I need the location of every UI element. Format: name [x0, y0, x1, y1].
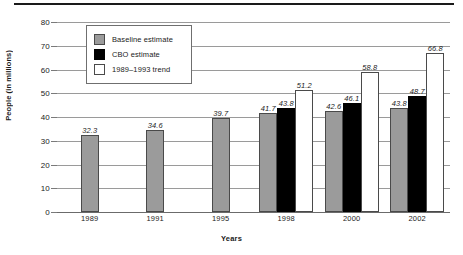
legend-swatch-trend-icon	[94, 64, 105, 75]
x-tick-label-2002: 2002	[409, 214, 427, 223]
x-tick-label-1991: 1991	[147, 214, 165, 223]
bar-2002-trend: 66.8	[426, 53, 444, 212]
bar-value-label-2002-cbo: 48.7	[410, 87, 425, 96]
x-tick-label-1989: 1989	[81, 214, 99, 223]
bar-1998-cbo: 43.8	[277, 108, 295, 212]
y-tick-label-40: 40	[41, 113, 50, 122]
bar-2002-cbo: 48.7	[408, 96, 426, 212]
bar-value-label-1998-trend: 51.2	[297, 81, 312, 90]
bar-value-label-1998-cbo: 43.8	[279, 99, 294, 108]
bar-value-label-2000-trend: 58.8	[362, 63, 377, 72]
bar-1991-baseline: 34.6	[146, 130, 164, 212]
y-tick-label-70: 70	[41, 41, 50, 50]
legend-item-trend: 1989–1993 trend	[94, 62, 184, 77]
chart-figure: People (in millions) 0102030405060708032…	[0, 0, 463, 255]
bar-value-label-1991-baseline: 34.6	[148, 121, 163, 130]
x-tick-label-1998: 1998	[278, 214, 296, 223]
bar-value-label-2000-baseline: 42.6	[326, 102, 341, 111]
legend-swatch-cbo-icon	[94, 49, 105, 60]
bar-1998-trend: 51.2	[295, 90, 313, 212]
legend-item-cbo: CBO estimate	[94, 47, 184, 62]
bar-group-1995: 39.71995	[188, 22, 254, 212]
legend-label-cbo: CBO estimate	[112, 50, 160, 59]
bar-value-label-2000-cbo: 46.1	[344, 94, 359, 103]
bar-2000-baseline: 42.6	[325, 111, 343, 212]
bar-2000-trend: 58.8	[361, 72, 379, 212]
bar-2000-cbo: 46.1	[343, 103, 361, 212]
y-tick-label-20: 20	[41, 160, 50, 169]
y-tick-label-80: 80	[41, 18, 50, 27]
bar-value-label-2002-baseline: 43.8	[392, 99, 407, 108]
x-tick-label-1995: 1995	[212, 214, 230, 223]
x-tick-label-2000: 2000	[343, 214, 361, 223]
legend-label-baseline: Baseline estimate	[112, 35, 173, 44]
bar-group-2000: 42.646.158.82000	[319, 22, 385, 212]
y-tick-label-30: 30	[41, 136, 50, 145]
y-tick-label-50: 50	[41, 89, 50, 98]
y-tick-label-10: 10	[41, 184, 50, 193]
y-tick-mark-0	[51, 212, 57, 213]
bar-value-label-2002-trend: 66.8	[428, 44, 443, 53]
header-rule	[14, 3, 454, 5]
x-axis-title: Years	[0, 234, 463, 243]
legend-label-trend: 1989–1993 trend	[112, 65, 170, 74]
bar-1998-baseline: 41.7	[259, 113, 277, 212]
bar-value-label-1989-baseline: 32.3	[82, 126, 97, 135]
bar-2002-baseline: 43.8	[390, 108, 408, 212]
chart-legend: Baseline estimate CBO estimate 1989–1993…	[86, 25, 192, 84]
bar-1989-baseline: 32.3	[81, 135, 99, 212]
bar-value-label-1998-baseline: 41.7	[261, 104, 276, 113]
bar-1995-baseline: 39.7	[212, 118, 230, 212]
gridline-0	[57, 212, 450, 213]
legend-item-baseline: Baseline estimate	[94, 32, 184, 47]
legend-swatch-baseline-icon	[94, 34, 105, 45]
bar-group-2002: 43.848.766.82002	[385, 22, 451, 212]
y-axis-title: People (in millions)	[4, 50, 14, 121]
bar-group-1998: 41.743.851.21998	[254, 22, 320, 212]
y-tick-label-0: 0	[45, 208, 50, 217]
bar-value-label-1995-baseline: 39.7	[213, 109, 228, 118]
y-tick-label-60: 60	[41, 65, 50, 74]
